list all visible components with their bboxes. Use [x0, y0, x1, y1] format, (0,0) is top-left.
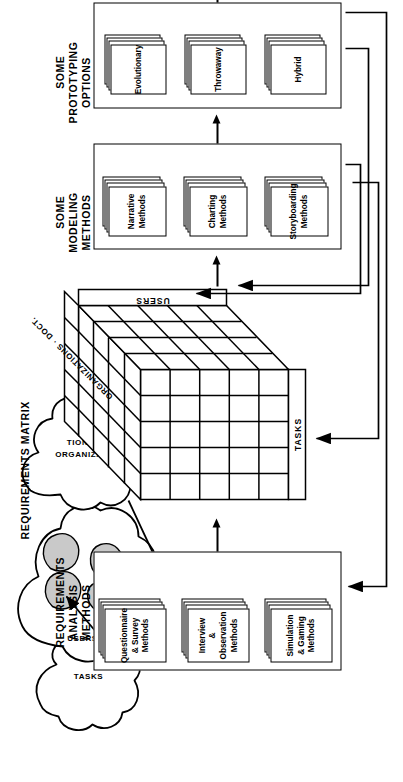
card-label-hybrid: Hybrid	[271, 45, 325, 93]
diagram-canvas: TASKS USERS ORGANIZA- TIONS	[0, 0, 403, 782]
card-label-storyboarding: Storyboarding Methods	[271, 187, 327, 235]
card-label-questionnaire: Questionnaire & Survey Methods	[105, 609, 165, 661]
sheet-front: Questionnaire & Survey Methods	[104, 608, 166, 662]
sheet-front: Evolutionary	[110, 44, 166, 94]
card-label-throwaway: Throwaway	[191, 45, 245, 93]
feedback-loops-svg	[0, 0, 403, 782]
sheet-front: Charting Methods	[189, 186, 247, 236]
sheet-front: Throwaway	[190, 44, 246, 94]
sheet-front: Narrative Methods	[108, 186, 166, 236]
diagram-rotated-container: TASKS USERS ORGANIZA- TIONS	[0, 0, 403, 782]
card-label-evolutionary: Evolutionary	[111, 45, 165, 93]
card-label-charting: Charting Methods	[190, 187, 246, 235]
sheet-front: Storyboarding Methods	[270, 186, 328, 236]
card-label-narrative: Narrative Methods	[109, 187, 165, 235]
card-label-interview: Interview & Observation Methods	[188, 609, 248, 661]
sheet-front: Hybrid	[270, 44, 326, 94]
sheet-front: Simulation & Gaming Methods	[270, 608, 332, 662]
sheet-front: Interview & Observation Methods	[187, 608, 249, 662]
card-label-simulation: Simulation & Gaming Methods	[271, 609, 331, 661]
feedback-prototyping-to-analysis	[345, 12, 386, 586]
